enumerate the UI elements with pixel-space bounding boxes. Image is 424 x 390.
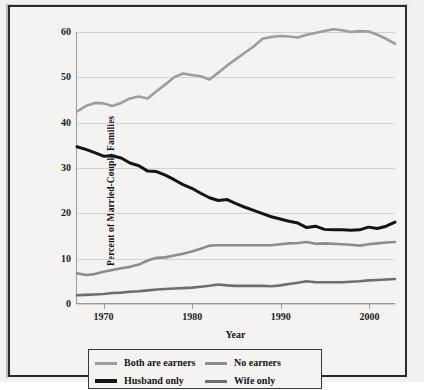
y-tick-label: 20	[61, 208, 71, 218]
y-tick-label: 10	[61, 254, 71, 264]
series-line-no-earners	[77, 242, 395, 275]
legend-entry-husband-only: Husband only	[95, 372, 205, 390]
legend-entry-no-earners: No earners	[205, 354, 315, 372]
y-tick-label: 40	[61, 118, 71, 128]
y-tick-label: 30	[61, 163, 71, 173]
legend-swatch-icon	[205, 380, 227, 383]
gridline	[77, 304, 395, 305]
x-tick-mark	[369, 303, 370, 309]
x-axis-title: Year	[76, 329, 395, 340]
x-tick-label: 1990	[271, 311, 291, 322]
series-line-husband-only	[77, 147, 395, 231]
x-tick-label: 1980	[182, 311, 202, 322]
legend-label: No earners	[234, 358, 281, 368]
series-line-wife-only	[77, 279, 395, 295]
x-tick-label: 1970	[94, 311, 114, 322]
legend-swatch-icon	[205, 362, 227, 365]
legend-label: Both are earners	[124, 358, 195, 368]
x-tick-mark	[192, 303, 193, 309]
chart-legend: Both are earners No earners Husband only…	[88, 349, 322, 389]
y-tick-label: 50	[61, 72, 71, 82]
legend-swatch-icon	[95, 379, 117, 383]
y-tick-label: 0	[66, 299, 71, 309]
legend-row: Husband only Wife only	[95, 372, 315, 390]
legend-label: Husband only	[124, 376, 184, 386]
series-lines	[77, 32, 395, 303]
legend-entry-both-are-earners: Both are earners	[95, 354, 205, 372]
legend-row: Both are earners No earners	[95, 354, 315, 372]
x-tick-mark	[281, 303, 282, 309]
legend-entry-wife-only: Wife only	[205, 372, 315, 390]
series-line-both-are-earners	[77, 29, 395, 111]
legend-swatch-icon	[95, 362, 117, 365]
x-tick-mark	[104, 303, 105, 309]
page-frame: Percent of Married-Couple Families 60504…	[8, 5, 407, 377]
plot-area: 6050403020100 1970198019902000	[76, 32, 395, 304]
x-tick-label: 2000	[359, 311, 379, 322]
y-tick-label: 60	[61, 27, 71, 37]
legend-label: Wife only	[234, 376, 275, 386]
